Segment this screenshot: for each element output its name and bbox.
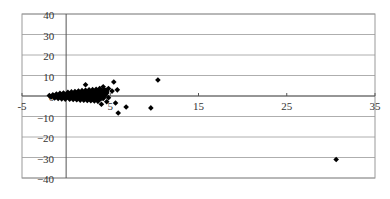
y-tick-label: 40 [43, 9, 55, 21]
y-tick-label: −20 [37, 132, 55, 144]
x-tick-label: 25 [281, 100, 293, 112]
y-tick-label: 10 [43, 71, 55, 83]
y-tick-label: 20 [43, 50, 55, 62]
scatter-chart: 403020100−10−20−30−40 -55152535 [0, 0, 390, 199]
y-tick-label: −10 [37, 112, 55, 124]
y-tick-label: −30 [37, 153, 55, 165]
y-tick-label: −40 [37, 173, 55, 185]
x-tick-label: 15 [193, 100, 205, 112]
x-tick-label: 35 [370, 100, 382, 112]
x-tick-label: -5 [17, 100, 27, 112]
y-tick-label: 30 [43, 30, 55, 42]
